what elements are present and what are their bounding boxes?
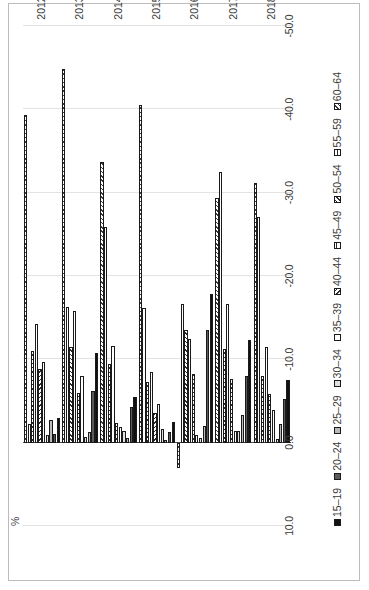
bar-2017-35-39: [233, 431, 236, 443]
bar-2012-45-49: [34, 324, 37, 442]
bar-2013-30-34: [84, 437, 87, 443]
legend-item-60-64[interactable]: 60–64: [331, 72, 343, 110]
legend-swatch-icon: [333, 196, 340, 203]
bar-2015-50-54: [146, 382, 149, 443]
legend-swatch-icon: [333, 103, 340, 110]
legend-label: 55–59: [331, 118, 343, 147]
year-label-2012: 2012: [35, 0, 47, 20]
bar-2015-55-59: [142, 308, 145, 443]
bar-2015-60-64: [138, 105, 141, 443]
bar-2016-50-54: [184, 330, 187, 443]
bar-2013-55-59: [65, 307, 68, 443]
legend-swatch-icon: [333, 519, 340, 526]
bar-2018-25-29: [279, 424, 282, 442]
bar-2012-60-64: [23, 115, 26, 443]
bar-2015-15-19: [171, 422, 174, 443]
bar-2012-15-19: [56, 418, 59, 443]
legend-swatch-icon: [333, 473, 340, 480]
axis-tick-label: 0.0: [283, 436, 295, 450]
year-label-2013: 2013: [73, 0, 85, 20]
bar-2016-45-49: [187, 339, 190, 443]
year-label-2017: 2017: [226, 0, 238, 20]
chart-legend: 15–1920–2425–2930–3435–3940–4445–4950–54…: [327, 26, 347, 526]
bar-2014-25-29: [126, 438, 129, 443]
bar-2015-30-34: [160, 429, 163, 442]
bar-2018-40-44: [268, 394, 271, 442]
bar-2014-35-39: [118, 427, 121, 443]
bar-2012-55-59: [27, 424, 30, 442]
bar-2018-45-49: [264, 347, 267, 443]
legend-swatch-icon: [333, 242, 340, 249]
bar-2016-35-39: [195, 435, 198, 443]
bar-2014-30-34: [122, 431, 125, 443]
bar-2017-15-19: [248, 340, 251, 443]
axis-tick-label: -30.0: [283, 181, 295, 204]
year-label-2018: 2018: [264, 0, 276, 20]
bar-2018-60-64: [253, 183, 256, 443]
bar-2018-35-39: [271, 410, 274, 443]
bar-2016-30-34: [198, 438, 201, 443]
bar-2018-15-19: [286, 380, 289, 443]
bar-2018-50-54: [260, 376, 263, 443]
legend-swatch-icon: [333, 149, 340, 156]
legend-item-55-59[interactable]: 55–59: [331, 118, 343, 156]
legend-item-35-39[interactable]: 35–39: [331, 303, 343, 341]
bar-2015-20-24: [167, 432, 170, 443]
bar-2012-25-29: [49, 420, 52, 443]
bar-2016-40-44: [191, 374, 194, 442]
axis-tick-label: -10.0: [283, 348, 295, 371]
bar-2012-30-34: [45, 435, 48, 443]
year-label-2016: 2016: [188, 0, 200, 20]
bar-2017-50-54: [222, 349, 225, 443]
bar-2013-35-39: [80, 376, 83, 443]
bar-2014-15-19: [133, 397, 136, 443]
legend-item-40-44[interactable]: 40–44: [331, 257, 343, 295]
bar-2018-30-34: [275, 439, 278, 443]
axis-tick-label: -20.0: [283, 265, 295, 288]
plot-area: [23, 26, 291, 526]
bar-chart: % 10.00.0-10.0-20.0-30.0-40.0-50.0 20122…: [9, 6, 361, 584]
bar-2017-55-59: [218, 172, 221, 443]
axis-tick-label: -40.0: [283, 98, 295, 121]
bar-2016-60-64: [177, 443, 180, 468]
bar-2014-60-64: [100, 162, 103, 443]
bar-2013-45-49: [73, 311, 76, 443]
bar-2014-55-59: [104, 227, 107, 443]
legend-item-25-29[interactable]: 25–29: [331, 395, 343, 433]
bar-2015-35-39: [157, 404, 160, 442]
bar-2015-45-49: [149, 372, 152, 443]
bar-2016-55-59: [180, 304, 183, 442]
legend-item-15-19[interactable]: 15–19: [331, 488, 343, 526]
legend-item-50-54[interactable]: 50–54: [331, 164, 343, 202]
bar-2012-20-24: [53, 434, 56, 443]
bar-2014-45-49: [111, 346, 114, 443]
legend-swatch-icon: [333, 334, 340, 341]
legend-item-30-34[interactable]: 30–34: [331, 349, 343, 387]
bar-2014-40-44: [115, 423, 118, 443]
bar-2013-25-29: [87, 432, 90, 443]
legend-label: 15–19: [331, 488, 343, 517]
bar-2014-20-24: [129, 407, 132, 443]
year-label-2015: 2015: [150, 0, 162, 20]
bar-2012-35-39: [42, 362, 45, 443]
legend-label: 25–29: [331, 395, 343, 424]
bar-2015-25-29: [164, 440, 167, 443]
legend-label: 40–44: [331, 257, 343, 286]
bar-2013-60-64: [62, 69, 65, 442]
bar-2016-20-24: [206, 330, 209, 443]
legend-item-20-24[interactable]: 20–24: [331, 442, 343, 480]
bar-2017-30-34: [237, 431, 240, 443]
legend-swatch-icon: [333, 380, 340, 387]
bar-2017-20-24: [244, 376, 247, 443]
bar-2017-25-29: [240, 415, 243, 443]
bar-2013-15-19: [95, 353, 98, 443]
bar-2012-40-44: [38, 369, 41, 442]
axis-tick-label: 10.0: [283, 516, 295, 536]
bar-2013-50-54: [69, 347, 72, 443]
legend-item-45-49[interactable]: 45–49: [331, 211, 343, 249]
bar-2016-15-19: [209, 294, 212, 442]
bar-2017-45-49: [226, 304, 229, 443]
gridline: [23, 25, 291, 26]
legend-label: 60–64: [331, 72, 343, 101]
bar-2017-60-64: [215, 198, 218, 443]
